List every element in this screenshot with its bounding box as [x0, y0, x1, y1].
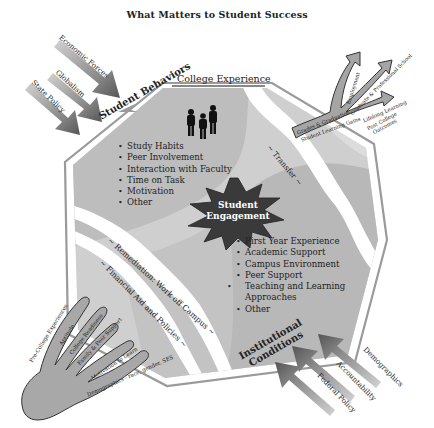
- list-item: Academic Support: [236, 247, 365, 258]
- list-item: Interaction with Faculty: [118, 164, 232, 175]
- student-engagement-line2: Engagement: [200, 211, 276, 222]
- student-behaviors-list: Study Habits Peer Involvement Interactio…: [118, 141, 232, 209]
- list-item: Campus Environment: [236, 259, 365, 270]
- institutional-conditions-list: First Year Experience Academic Support C…: [236, 236, 365, 315]
- list-item: Peer Support: [236, 270, 365, 281]
- list-item: Motivation: [118, 186, 232, 197]
- list-item: First Year Experience: [236, 236, 365, 247]
- diagram-title: What Matters to Student Success: [0, 9, 434, 20]
- list-item: Study Habits: [118, 141, 232, 152]
- college-experience-underline: [172, 85, 265, 87]
- list-item: Peer Involvement: [118, 152, 232, 163]
- list-item: Time on Task: [118, 175, 232, 186]
- student-engagement-line1: Student: [200, 200, 276, 211]
- student-engagement-label: Student Engagement: [200, 200, 276, 222]
- list-item: Teaching and Learning Approaches: [236, 281, 365, 304]
- college-experience-label: College Experience: [177, 73, 271, 84]
- list-item: Other: [236, 304, 365, 315]
